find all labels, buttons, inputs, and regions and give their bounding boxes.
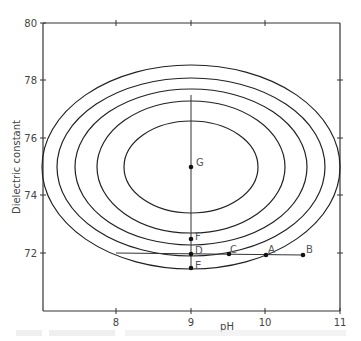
point-f	[189, 237, 194, 242]
label-c: C	[230, 244, 237, 255]
x-tick-11: 11	[334, 317, 347, 328]
point-b	[301, 253, 306, 258]
y-tick-78: 78	[24, 75, 37, 86]
label-f: F	[195, 231, 201, 242]
x-tick-10: 10	[259, 317, 272, 328]
y-tick-76: 76	[24, 133, 37, 144]
label-d: D	[195, 245, 203, 256]
figure-caption-faint	[16, 330, 346, 336]
label-e: E	[195, 260, 201, 271]
label-b: B	[306, 244, 313, 255]
point-g	[189, 165, 194, 170]
label-g: G	[196, 157, 204, 168]
contour-chart: 80 78 76 74 72 8 9 10 11 pH Dielectric c…	[0, 0, 361, 341]
label-a: A	[268, 244, 275, 255]
y-axis-title: Dielectric constant	[11, 120, 22, 214]
y-tick-80: 80	[24, 18, 37, 29]
x-tick-8: 8	[113, 317, 119, 328]
point-d	[189, 252, 194, 257]
point-e	[189, 266, 194, 271]
x-tick-9: 9	[188, 317, 194, 328]
y-tick-74: 74	[24, 190, 37, 201]
y-tick-72: 72	[24, 248, 37, 259]
